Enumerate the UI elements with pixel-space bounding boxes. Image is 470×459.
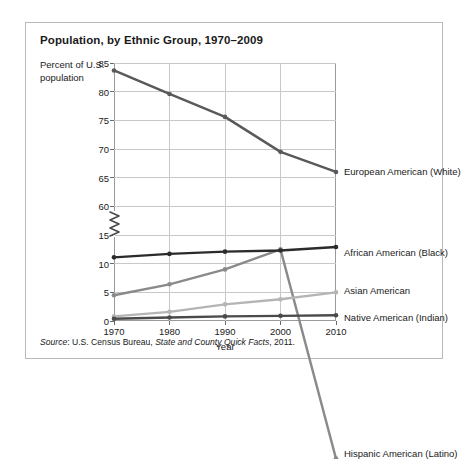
x-tick-label-1990: 1990 (214, 326, 235, 337)
y-tick-label-0: 0 (104, 316, 109, 327)
x-tick-mark-1980 (169, 321, 170, 325)
data-point (223, 302, 228, 307)
source-publisher: : U.S. Census Bureau, (67, 337, 155, 347)
x-tick-mark-2000 (280, 321, 281, 325)
data-point (278, 150, 283, 155)
source-publication: State and County Quick Facts (155, 337, 269, 347)
data-point (167, 252, 172, 257)
data-point (223, 314, 228, 319)
series-lines (114, 63, 336, 321)
y-tick-label-70: 70 (98, 144, 109, 155)
data-point (112, 255, 117, 260)
source-suffix: , 2011. (269, 337, 295, 347)
data-point (112, 68, 117, 73)
series-label-1: Hispanic American (Latino) (344, 448, 458, 459)
x-tick-label-1980: 1980 (159, 326, 180, 337)
series-label-0: European American (White) (344, 166, 461, 177)
series-line-1 (114, 249, 336, 458)
data-point (223, 115, 228, 120)
data-point (112, 316, 117, 321)
data-point (334, 170, 339, 175)
y-tick-label-5: 5 (104, 287, 109, 298)
data-point (112, 293, 117, 298)
x-tick-label-2010: 2010 (325, 326, 346, 337)
data-point (334, 313, 339, 318)
data-point (167, 282, 172, 287)
data-point (167, 310, 172, 315)
y-tick-label-80: 80 (98, 86, 109, 97)
y-tick-label-65: 65 (98, 172, 109, 183)
source-note: Source: U.S. Census Bureau, State and Co… (40, 337, 295, 347)
x-tick-label-1970: 1970 (103, 326, 124, 337)
x-tick-mark-1990 (225, 321, 226, 325)
series-label-4: Native American (Indian) (344, 312, 448, 323)
y-tick-label-75: 75 (98, 115, 109, 126)
chart-title: Population, by Ethnic Group, 1970–2009 (40, 34, 263, 46)
x-tick-label-2000: 2000 (270, 326, 291, 337)
data-point (278, 314, 283, 319)
figure-frame: Population, by Ethnic Group, 1970–2009 P… (25, 22, 443, 359)
y-tick-label-85: 85 (98, 58, 109, 69)
source-prefix: Source (40, 337, 67, 347)
series-label-3: Asian American (344, 285, 410, 296)
data-point (278, 297, 283, 302)
plot-area: 051015606570758085 19701980199020002010 (114, 63, 336, 321)
series-line-0 (114, 70, 336, 171)
data-point (278, 248, 283, 253)
data-point (334, 245, 339, 250)
data-point (223, 267, 228, 272)
data-point (223, 249, 228, 254)
y-tick-label-10: 10 (98, 258, 109, 269)
series-label-2: African American (Black) (344, 247, 448, 258)
data-point (334, 290, 339, 295)
data-point (167, 315, 172, 320)
data-point (167, 92, 172, 97)
x-tick-mark-2010 (336, 321, 337, 325)
x-tick-mark-1970 (114, 321, 115, 325)
